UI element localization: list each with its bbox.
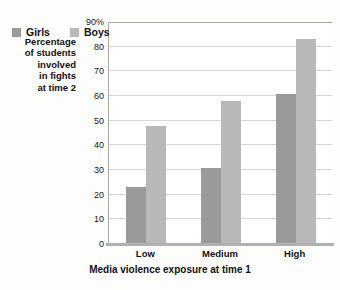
y-axis-tick-label: 0: [70, 239, 104, 249]
x-axis-tick-label-low: Low: [110, 248, 180, 259]
x-axis-title: Media violence exposure at time 1: [0, 264, 340, 275]
plot-area: [108, 22, 332, 244]
y-axis-tick-label: 10: [70, 214, 104, 224]
y-axis-tick-label: 60: [70, 91, 104, 101]
bar-girls-medium: [201, 168, 221, 244]
x-axis-tick-label-medium: Medium: [185, 248, 255, 259]
y-axis-title-line: of students: [4, 47, 76, 58]
bar-girls-low: [126, 187, 146, 244]
bar-chart: Percentage of students involved in fight…: [0, 0, 340, 290]
y-axis-title-line: in fights: [4, 70, 76, 81]
y-axis-title-line: at time 2: [4, 82, 76, 93]
y-axis-tick-label: 20: [70, 190, 104, 200]
y-axis-tick-label: 30: [70, 165, 104, 175]
y-axis-tick-label: 50: [70, 116, 104, 126]
y-axis-tick-label: 40: [70, 140, 104, 150]
y-axis-tick-label: 80: [70, 42, 104, 52]
y-axis-tick-label: 70: [70, 66, 104, 76]
x-axis-tick-label-high: High: [260, 248, 330, 259]
legend-swatch-girls-icon: [12, 28, 21, 37]
bar-boys-medium: [221, 101, 241, 244]
bar-boys-high: [296, 39, 316, 244]
legend-label-boys: Boys: [84, 26, 110, 38]
y-axis-title: Percentage of students involved in fight…: [4, 36, 76, 93]
legend-label-girls: Girls: [26, 26, 50, 38]
y-axis-title-line: involved: [4, 59, 76, 70]
bar-boys-low: [146, 126, 166, 244]
legend-swatch-boys-icon: [70, 28, 79, 37]
bar-girls-high: [276, 94, 296, 244]
legend-item-girls: Girls: [12, 26, 50, 38]
legend: Girls Boys: [12, 26, 110, 38]
x-axis-line: [106, 243, 334, 246]
legend-item-boys: Boys: [70, 26, 110, 38]
